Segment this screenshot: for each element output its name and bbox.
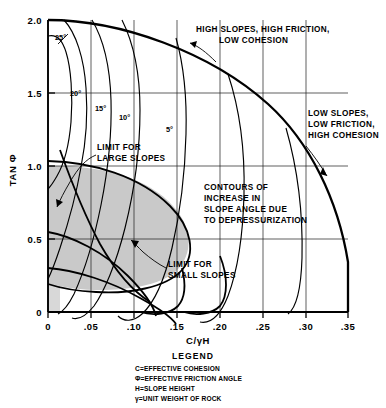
legend-item-cohesion: C=EFFECTIVE COHESION (135, 365, 220, 372)
x-tick-20: .20 (213, 321, 227, 332)
annotation-limit-large-line1: LIMIT FOR (97, 143, 141, 152)
x-axis-title: C/γH (186, 335, 210, 346)
x-tick-05: .05 (84, 321, 99, 332)
annotation-limit-small-line1: LIMIT FOR (168, 260, 212, 269)
annotation-high-slopes-line2: LOW COHESION (219, 36, 288, 45)
annotation-low-slopes-line2: LOW FRICTION, (308, 120, 375, 129)
x-tick-15: .15 (170, 321, 185, 332)
annotation-contours-line3: SLOPE ANGLE DUE (204, 205, 287, 214)
contour-label-10: 10° (119, 113, 130, 122)
annotation-contours-line1: CONTOURS OF (204, 183, 268, 192)
y-tick-1-5: 1.5 (28, 88, 43, 99)
x-tick-25: .25 (256, 321, 271, 332)
contour-label-5: 5° (166, 125, 173, 134)
annotation-high-slopes-line1: HIGH SLOPES, HIGH FRICTION, (196, 25, 330, 34)
x-tick-0: 0 (45, 321, 51, 332)
annotation-contours-line2: INCREASE IN (204, 194, 261, 203)
legend-title: LEGEND (172, 351, 214, 361)
y-tick-2-0: 2.0 (28, 15, 42, 26)
x-tick-35: .35 (341, 321, 356, 332)
legend-item-friction-angle: Φ=EFFECTIVE FRICTION ANGLE (135, 375, 243, 382)
annotation-contours-line4: TO DEPRESSURIZATION (204, 216, 307, 225)
contour-label-25: 25° (55, 33, 66, 42)
legend-item-slope-height: H=SLOPE HEIGHT (135, 385, 195, 392)
y-tick-0: 0 (36, 307, 42, 318)
contour-label-15: 15° (95, 104, 106, 113)
contour-label-20: 20° (70, 89, 81, 98)
y-tick-1-0: 1.0 (28, 161, 42, 172)
legend-item-unit-weight: γ=UNIT WEIGHT OF ROCK (135, 395, 222, 403)
y-axis-title: TAN Φ (7, 154, 18, 186)
annotation-limit-large-line2: LARGE SLOPES (97, 154, 166, 163)
annotation-low-slopes-line3: HIGH COHESION (308, 131, 379, 140)
x-tick-30: .30 (299, 321, 313, 332)
annotation-limit-small-line2: SMALL SLOPES (168, 271, 236, 280)
x-tick-10: .10 (127, 321, 141, 332)
annotation-low-slopes-line1: LOW SLOPES, (308, 109, 369, 118)
y-tick-0-5: 0.5 (28, 234, 43, 245)
slope-stability-contour-chart: 25° 20° 15° 10° 5° 2.0 1.5 1.0 0.5 0 0 .… (0, 0, 386, 408)
